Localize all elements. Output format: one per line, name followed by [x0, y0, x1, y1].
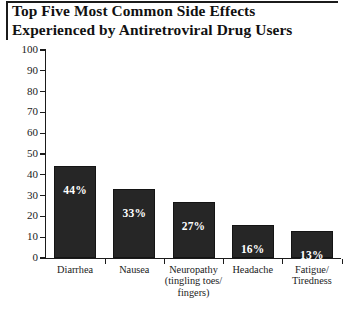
x-axis-tick: [223, 259, 224, 264]
x-axis-category-label: Nausea: [101, 264, 168, 275]
y-axis-tick: [40, 153, 46, 154]
y-axis-tick-label: 50: [8, 148, 38, 159]
y-axis-tick: [40, 91, 46, 92]
y-axis-tick-label: 40: [8, 169, 38, 180]
y-axis-tick-label: 80: [8, 86, 38, 97]
x-axis-category-label: Diarrhea: [42, 264, 109, 275]
y-axis-tick: [40, 49, 46, 50]
y-axis-tick-label: 90: [8, 65, 38, 76]
y-axis-tick: [40, 133, 46, 134]
bar-value-label: 27%: [173, 221, 215, 233]
bar-value-label: 13%: [291, 250, 333, 262]
x-axis-category-label: Neuropathy (tingling toes/ fingers): [160, 264, 227, 298]
y-axis-tick: [40, 70, 46, 71]
x-axis-category-label: Headache: [219, 264, 286, 275]
y-axis-tick: [40, 112, 46, 113]
y-axis-tick-label: 30: [8, 190, 38, 201]
x-axis-tick: [282, 259, 283, 264]
y-axis-tick-label: 100: [8, 44, 38, 55]
y-axis-tick-label: 70: [8, 106, 38, 117]
x-axis-tick: [164, 259, 165, 264]
x-axis-tick: [342, 259, 343, 264]
y-axis-tick: [40, 237, 46, 238]
y-axis-tick: [40, 195, 46, 196]
y-axis-tick: [40, 216, 46, 217]
y-axis-tick-label: 60: [8, 127, 38, 138]
plot-area: 0102030405060708090100 44%33%27%16%13% D…: [0, 0, 349, 316]
y-axis-tick-label: 10: [8, 231, 38, 242]
x-axis-category-label: Fatigue/ Tiredness: [278, 264, 345, 287]
bar: [113, 189, 155, 258]
bar-value-label: 44%: [54, 185, 96, 197]
y-axis-tick: [40, 174, 46, 175]
x-axis-tick: [105, 259, 106, 264]
chart-figure: Top Five Most Common Side Effects Experi…: [0, 0, 349, 316]
bar-value-label: 33%: [113, 208, 155, 220]
y-axis-tick-label: 20: [8, 210, 38, 221]
y-axis-tick-label: 0: [8, 252, 38, 263]
y-axis-tick: [40, 257, 46, 258]
bar-value-label: 16%: [232, 244, 274, 256]
bar: [54, 166, 96, 258]
